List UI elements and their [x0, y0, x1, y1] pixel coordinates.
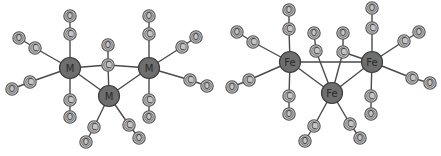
carbon-atom: C — [88, 121, 100, 133]
carbon-atom-label: C — [146, 96, 152, 105]
oxygen-atom-label: O — [340, 29, 346, 38]
oxygen-atom: O — [424, 77, 436, 89]
oxygen-atom-label: O — [311, 29, 317, 38]
carbon-atom-label: C — [369, 24, 375, 33]
carbon-atom-label: C — [27, 78, 33, 87]
carbon-atom-label: C — [286, 25, 292, 34]
carbon-atom: C — [344, 118, 356, 130]
oxygen-atom-label: O — [427, 79, 433, 88]
metal-label: Fe — [284, 57, 295, 68]
metal-atom-m2: M — [99, 86, 120, 107]
carbon-atom: C — [283, 23, 295, 35]
oxygen-atom-label: O — [286, 110, 292, 119]
carbon-atom-label: C — [347, 120, 353, 129]
carbon-atom-label: C — [340, 48, 346, 57]
oxygen-atom-label: O — [286, 6, 292, 15]
metal-label: M — [105, 91, 114, 102]
oxygen-atom-label: O — [83, 138, 89, 147]
left-metal-carbonyl-cluster: OCOCOCOCOCOCOCOCOCOCOCMMM — [6, 10, 213, 148]
metal-atom-fe2: Fe — [322, 83, 343, 104]
oxygen-atom-label: O — [234, 28, 240, 37]
carbon-atom-label: C — [67, 30, 73, 39]
oxygen-atom-label: O — [146, 12, 152, 21]
carbon-atom: C — [64, 28, 76, 40]
oxygen-atom-label: O — [204, 82, 210, 91]
carbon-atom-label: C — [32, 44, 38, 53]
oxygen-atom: O — [201, 80, 213, 92]
metal-atom-m3: M — [139, 58, 160, 79]
metal-atom-fe3: Fe — [362, 52, 383, 73]
oxygen-atom-label: O — [9, 85, 15, 94]
carbon-atom: C — [398, 35, 410, 47]
oxygen-atom: O — [413, 26, 425, 38]
carbon-atom: C — [283, 90, 295, 102]
oxygen-atom: O — [365, 108, 377, 120]
carbon-atom-label: C — [187, 76, 193, 85]
carbon-atom: C — [123, 119, 135, 131]
metal-label: Fe — [366, 57, 377, 68]
carbon-atom: C — [102, 59, 114, 71]
carbon-atom: C — [247, 36, 259, 48]
carbon-atom-label: C — [313, 47, 319, 56]
oxygen-atom: O — [64, 10, 76, 22]
carbon-atom: C — [337, 46, 349, 58]
oxygen-atom: O — [13, 32, 25, 44]
bonds-layer — [232, 8, 430, 141]
oxygen-atom: O — [337, 27, 349, 39]
carbon-atom-label: C — [67, 96, 73, 105]
oxygen-atom: O — [283, 4, 295, 16]
oxygen-atom-label: O — [416, 28, 422, 37]
carbon-atom-label: C — [246, 76, 252, 85]
carbon-atom: C — [365, 90, 377, 102]
carbon-atom: C — [143, 28, 155, 40]
carbon-atom-label: C — [409, 74, 415, 83]
carbon-atom-label: C — [286, 92, 292, 101]
carbon-atom-label: C — [250, 38, 256, 47]
oxygen-atom: O — [226, 81, 238, 93]
molecular-diagram-canvas: OCOCOCOCOCOCOCOCOCOCOCMMM OCOCOCOCOCOCOC… — [0, 0, 441, 156]
oxygen-atom: O — [299, 135, 311, 147]
oxygen-atom: O — [6, 83, 18, 95]
right-iron-carbonyl-cluster: OCOCOCOCOCOCOCOCOCOCOCOCFeFeFe — [226, 2, 436, 147]
oxygen-atom: O — [80, 136, 92, 148]
metal-label: M — [66, 63, 75, 74]
carbon-atom: C — [406, 72, 418, 84]
carbon-atom: C — [143, 94, 155, 106]
carbon-atom-label: C — [146, 30, 152, 39]
carbon-atom-label: C — [179, 43, 185, 52]
carbon-atom: C — [366, 22, 378, 34]
oxygen-atom: O — [354, 132, 366, 144]
bonds-layer — [12, 16, 207, 142]
metal-atom-m1: M — [60, 58, 81, 79]
oxygen-atom-label: O — [302, 137, 308, 146]
oxygen-atom: O — [366, 2, 378, 14]
carbon-atom: C — [310, 45, 322, 57]
oxygen-atom-label: O — [368, 110, 374, 119]
carbon-atom-label: C — [91, 123, 97, 132]
carbon-atom-label: C — [105, 61, 111, 70]
carbon-atom: C — [176, 41, 188, 53]
oxygen-atom: O — [143, 10, 155, 22]
oxygen-atom: O — [143, 111, 155, 123]
oxygen-atom-label: O — [67, 113, 73, 122]
carbon-atom: C — [184, 74, 196, 86]
oxygen-atom-label: O — [146, 113, 152, 122]
metal-label: M — [145, 63, 154, 74]
carbon-atom-label: C — [311, 122, 317, 131]
metal-atom-fe1: Fe — [280, 52, 301, 73]
carbon-atom-label: C — [126, 121, 132, 130]
oxygen-atom: O — [133, 132, 145, 144]
carbon-atom: C — [243, 74, 255, 86]
oxygen-atom-label: O — [357, 134, 363, 143]
oxygen-atom-label: O — [229, 83, 235, 92]
oxygen-atom-label: O — [16, 34, 22, 43]
oxygen-atom: O — [190, 31, 202, 43]
metal-label: Fe — [326, 88, 337, 99]
oxygen-atom: O — [231, 26, 243, 38]
oxygen-atom-label: O — [67, 12, 73, 21]
carbon-atom: C — [64, 94, 76, 106]
carbon-atom-label: C — [401, 37, 407, 46]
oxygen-atom: O — [64, 111, 76, 123]
oxygen-atom-label: O — [105, 41, 111, 50]
oxygen-atom: O — [283, 108, 295, 120]
